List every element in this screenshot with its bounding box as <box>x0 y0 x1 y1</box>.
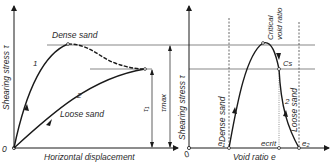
tau-max-arrow-top-icon <box>168 45 172 51</box>
cs-point <box>278 68 281 71</box>
tau-1-label: τ₁ <box>141 106 150 112</box>
right-peak-point <box>262 42 265 45</box>
right-origin-label: 0 <box>182 149 191 160</box>
tau-1-arrow-top-icon <box>150 69 154 75</box>
e2-point <box>298 147 301 150</box>
right-x-axis-label: Void ratio e <box>233 152 276 162</box>
residual-point <box>144 68 147 71</box>
curve-2-arrow-icon <box>46 119 52 126</box>
ecrit-point <box>278 147 281 150</box>
e1-label: e₁ <box>218 139 225 148</box>
tau-max-arrow-bottom-icon <box>168 142 172 148</box>
left-y-axis-label: Shearing stress τ <box>1 45 11 110</box>
e1-point <box>228 147 231 150</box>
tau-1-arrow-bottom-icon <box>150 142 154 148</box>
critical-label-line1: Critical <box>266 15 275 40</box>
tau-max-label: τmax <box>159 93 168 112</box>
e2-label: e₂ <box>302 139 310 148</box>
right-origin-point <box>187 146 190 149</box>
curve-1-label: 1 <box>33 59 37 68</box>
curve-1-dense-rise <box>14 44 68 148</box>
cs-label: Cs <box>283 59 292 68</box>
right-curve-2-label: 2 <box>284 97 290 106</box>
curve-1-dense-descent <box>68 44 145 69</box>
right-y-axis-label: Shearing stress τ <box>177 75 187 140</box>
ecrit-label: ecrit <box>261 139 277 148</box>
dense-peak-point <box>67 43 70 46</box>
shear-stress-diagram: Shearing stress τ Horizontal displacemen… <box>0 0 330 163</box>
right-curve-dense <box>229 43 279 148</box>
critical-label-line2: void ratio <box>275 7 284 40</box>
left-origin-label: 0 <box>2 144 7 154</box>
right-panel: Shearing stress τ Void ratio e 0 Critica… <box>177 6 329 162</box>
dense-sand-label: Dense sand <box>52 30 98 40</box>
curve-2-label: 2 <box>76 91 82 100</box>
loose-sand-label: Loose sand <box>60 109 104 119</box>
left-x-axis-label: Horizontal displacement <box>44 152 135 162</box>
right-loose-sand-label: Loose sand <box>289 88 299 132</box>
right-dense-sand-label: Dense sand <box>217 96 227 142</box>
